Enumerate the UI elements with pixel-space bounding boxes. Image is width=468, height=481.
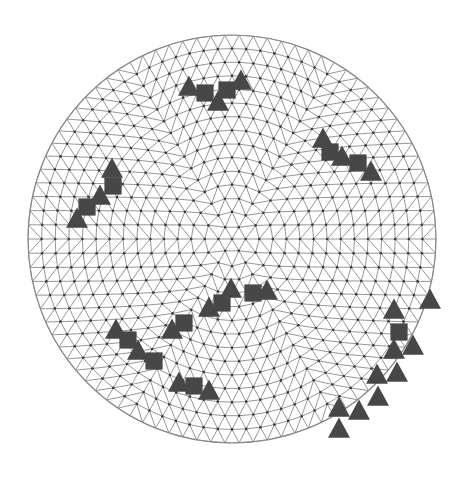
- mesh-node: [108, 238, 111, 241]
- mesh-node: [380, 119, 383, 122]
- mesh-node: [98, 209, 101, 212]
- mesh-node: [66, 143, 69, 146]
- mesh-node: [366, 252, 369, 255]
- mesh-node: [297, 151, 300, 154]
- mesh-node: [224, 278, 227, 281]
- mesh-node: [276, 288, 279, 291]
- mesh-node: [183, 155, 186, 158]
- mesh-node: [98, 355, 101, 358]
- mesh-node: [280, 408, 283, 411]
- mesh-node: [45, 280, 48, 283]
- mesh-node: [419, 266, 422, 269]
- mesh-node: [331, 383, 334, 386]
- mesh-node: [224, 143, 227, 146]
- mesh-node: [357, 319, 360, 322]
- mesh-node: [150, 252, 153, 255]
- mesh-node: [311, 224, 314, 227]
- mesh-node: [293, 403, 296, 406]
- mesh-node: [349, 89, 352, 92]
- mesh-node: [68, 168, 71, 171]
- mesh-node: [148, 66, 151, 69]
- mesh-node: [339, 252, 342, 255]
- mesh-node: [413, 182, 416, 185]
- mesh-node: [224, 116, 227, 119]
- mesh-node: [189, 367, 192, 370]
- mesh-node: [184, 265, 187, 268]
- mesh-node: [170, 344, 173, 347]
- mesh-node: [340, 183, 343, 186]
- mesh-node: [364, 306, 367, 309]
- mesh-node: [301, 279, 304, 282]
- mesh-node: [273, 80, 276, 83]
- mesh-node: [326, 238, 329, 241]
- mesh-node: [405, 209, 408, 212]
- mesh-node: [165, 324, 168, 327]
- mesh-node: [355, 293, 358, 296]
- mesh-node: [297, 224, 300, 227]
- mesh-node: [199, 212, 202, 215]
- mesh-node: [106, 343, 109, 346]
- mesh-node: [238, 226, 241, 229]
- mesh-node: [380, 238, 383, 241]
- mesh-node: [92, 182, 95, 185]
- mesh-node: [266, 383, 269, 386]
- mesh-node: [272, 137, 275, 140]
- mesh-node: [121, 183, 124, 186]
- mesh-node: [380, 356, 383, 359]
- mesh-node: [370, 182, 373, 185]
- mesh-node: [150, 224, 153, 227]
- mesh-node: [346, 353, 349, 356]
- mesh-node: [380, 332, 383, 335]
- mesh-node: [309, 291, 312, 294]
- mesh-node: [81, 238, 84, 241]
- mesh-node: [105, 157, 108, 160]
- mesh-node: [374, 280, 377, 283]
- mesh-node: [339, 341, 342, 344]
- mesh-node: [374, 196, 377, 199]
- mesh-node: [325, 183, 328, 186]
- mesh-node: [360, 98, 363, 101]
- mesh-node: [299, 356, 302, 359]
- mesh-node: [113, 145, 116, 148]
- mesh-node: [266, 355, 269, 358]
- mesh-node: [388, 196, 391, 199]
- mesh-node: [280, 379, 283, 382]
- mesh-node: [364, 209, 367, 212]
- mesh-node: [326, 73, 329, 76]
- mesh-node: [83, 307, 86, 310]
- mesh-node: [184, 211, 187, 214]
- mesh-node: [360, 196, 363, 199]
- mesh-node: [293, 210, 296, 213]
- mesh-node: [245, 130, 248, 133]
- mesh-node: [189, 338, 192, 341]
- mesh-node: [89, 132, 92, 135]
- square-marker: [104, 177, 121, 194]
- mesh-node: [421, 224, 424, 227]
- mesh-node: [286, 198, 289, 201]
- mesh-node: [405, 266, 408, 269]
- mesh-node: [224, 170, 227, 173]
- mesh-node: [283, 224, 286, 227]
- mesh-node: [304, 336, 307, 339]
- mesh-node: [343, 375, 346, 378]
- mesh-node: [74, 156, 77, 159]
- mesh-node: [297, 252, 300, 255]
- mesh-node: [98, 121, 101, 124]
- mesh-node: [56, 266, 59, 269]
- mesh-node: [121, 158, 124, 161]
- mesh-node: [98, 169, 101, 172]
- mesh-node: [70, 266, 73, 269]
- mesh-node: [121, 293, 124, 296]
- mesh-node: [292, 344, 295, 347]
- mesh-node: [178, 252, 181, 255]
- mesh-node: [259, 343, 262, 346]
- mesh-node: [126, 363, 129, 366]
- mesh-node: [178, 175, 181, 178]
- mesh-node: [113, 306, 116, 309]
- mesh-node: [252, 302, 255, 305]
- triangle-marker: [348, 400, 370, 420]
- mesh-node: [59, 280, 62, 283]
- mesh-node: [311, 128, 314, 131]
- mesh-node: [393, 224, 396, 227]
- mesh-node: [42, 266, 45, 269]
